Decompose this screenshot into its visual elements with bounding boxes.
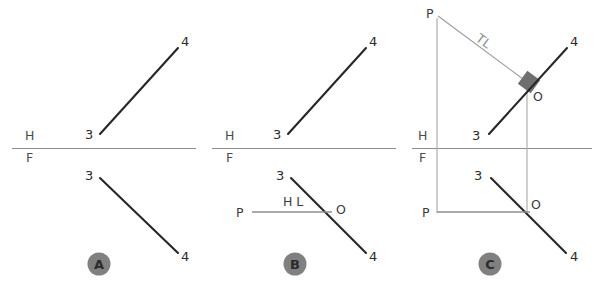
badge-label-c: C [485, 257, 495, 272]
point-label-4-top-c: 4 [570, 34, 578, 49]
fold-label-f-c: F [419, 150, 426, 165]
point-label-3-top-a: 3 [85, 127, 93, 142]
point-label-4-front-a: 4 [181, 249, 189, 264]
origin-point-label-o-b: O [336, 202, 346, 217]
badge-label-b: B [290, 257, 300, 272]
pivot-point-label-p-top-c: P [426, 6, 434, 21]
pivot-point-label-p-b: P [236, 205, 244, 220]
fold-label-h-b: H [225, 128, 234, 143]
panel-badge-a: A [88, 253, 111, 276]
point-label-3-front-c: 3 [474, 168, 482, 183]
point-label-4-top-b: 4 [369, 34, 377, 49]
point-label-3-front-b: 3 [276, 168, 284, 183]
technical-drawing: H F 3 4 3 4 A H F 3 4 3 4 P H L O B [0, 0, 599, 292]
point-label-4-front-c: 4 [570, 249, 578, 264]
canvas-background [0, 0, 599, 292]
point-label-3-top-c: 3 [472, 128, 480, 143]
fold-label-h-a: H [25, 128, 34, 143]
panel-badge-c: C [479, 253, 502, 276]
origin-point-label-o-top-c: O [533, 89, 543, 104]
fold-label-h-c: H [418, 128, 427, 143]
horizontal-line-label-hl-b: H L [283, 194, 303, 209]
origin-point-label-o-bottom-c: O [531, 197, 541, 212]
pivot-point-label-p-bottom-c: P [422, 205, 430, 220]
point-label-4-front-b: 4 [369, 249, 377, 264]
fold-label-f-b: F [226, 150, 233, 165]
panel-badge-b: B [284, 253, 307, 276]
figure-canvas: H F 3 4 3 4 A H F 3 4 3 4 P H L O B [0, 0, 599, 292]
badge-label-a: A [94, 257, 104, 272]
point-label-4-top-a: 4 [181, 34, 189, 49]
point-label-3-front-a: 3 [85, 168, 93, 183]
fold-label-f-a: F [26, 150, 33, 165]
point-label-3-top-b: 3 [273, 127, 281, 142]
